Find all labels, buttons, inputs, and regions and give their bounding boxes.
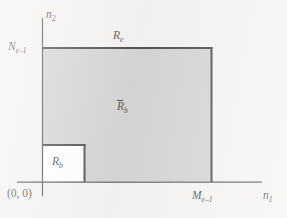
region-rb-label: Rb — [52, 156, 63, 168]
x-axis-tick-subscript: e–1 — [202, 195, 213, 204]
region-rb-fill — [43, 145, 85, 181]
region-rb-complement-label-subscript: b — [124, 106, 128, 115]
figure-container: n2 n1 Ne–1 Me–1 (0, 0) Re Rb Rb — [0, 0, 287, 218]
diagram-canvas — [0, 0, 287, 218]
origin-label: (0, 0) — [7, 188, 32, 200]
overbar — [117, 100, 123, 101]
y-axis-label: n2 — [46, 9, 56, 21]
region-rb-complement-label: Rb — [117, 101, 128, 113]
x-axis-label: n1 — [263, 190, 273, 202]
y-axis-label-subscript: 2 — [52, 14, 56, 23]
region-re-label: Re — [113, 30, 123, 42]
y-axis-tick-subscript: e–1 — [16, 46, 27, 55]
x-axis-label-subscript: 1 — [269, 195, 273, 204]
y-axis-tick-label: Ne–1 — [8, 41, 27, 53]
region-rb-label-subscript: b — [59, 161, 63, 170]
region-re-label-subscript: e — [120, 35, 123, 44]
x-axis-tick-label: Me–1 — [192, 190, 213, 202]
